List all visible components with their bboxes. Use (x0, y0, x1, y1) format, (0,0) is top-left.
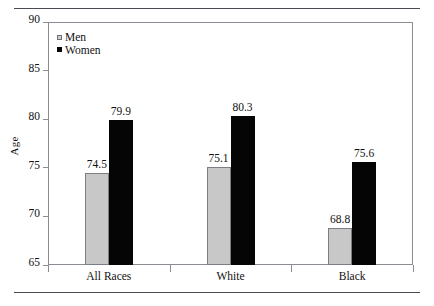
bottom-horizontal-rule (14, 292, 420, 293)
legend-swatch-women-icon (57, 47, 62, 52)
y-tick-label: 75 (29, 160, 41, 172)
y-tick-label: 80 (29, 111, 41, 123)
legend-swatch-men-icon (57, 35, 62, 40)
legend-item-men[interactable]: Men (57, 31, 100, 44)
y-tick-label: 65 (29, 257, 41, 269)
bar-value-white-women: 80.3 (213, 102, 273, 114)
x-axis-label-white: White (171, 270, 291, 282)
bar-value-white-men: 75.1 (189, 153, 249, 165)
x-axis-label-all-races: All Races (49, 270, 169, 282)
legend-item-women[interactable]: Women (57, 44, 100, 57)
legend-label-women: Women (65, 44, 100, 57)
top-horizontal-rule (14, 8, 420, 9)
bar-white-women[interactable] (231, 116, 255, 265)
x-tick-mark-3 (413, 265, 414, 272)
bar-value-black-men: 68.8 (310, 214, 370, 226)
bar-value-black-women: 75.6 (334, 148, 394, 160)
figure: Age 908580757065 All RacesWhiteBlack 74.… (0, 0, 434, 306)
bar-white-men[interactable] (207, 167, 231, 265)
y-tick-label: 90 (29, 14, 41, 26)
legend-label-men: Men (65, 31, 86, 44)
bar-value-all-races-women: 79.9 (91, 106, 151, 118)
bar-value-all-races-men: 74.5 (67, 159, 127, 171)
bar-all-races-men[interactable] (85, 173, 109, 265)
bar-black-men[interactable] (328, 228, 352, 265)
y-tick-label: 70 (29, 208, 41, 220)
y-tick-label: 85 (29, 63, 41, 75)
x-axis-label-black: Black (292, 270, 412, 282)
y-axis-title: Age (8, 116, 20, 176)
legend: Men Women (57, 31, 100, 56)
bar-all-races-women[interactable] (109, 120, 133, 265)
